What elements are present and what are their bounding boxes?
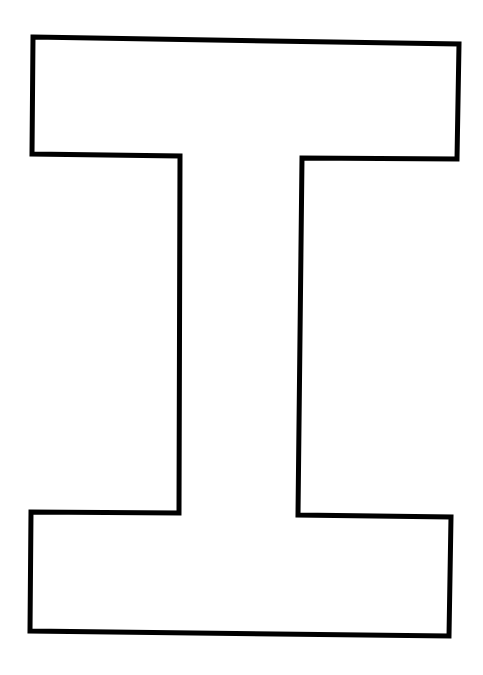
page-canvas: I [0,0,483,675]
letter-i-outline-icon [0,0,483,675]
letter-outline-shape [30,37,459,636]
